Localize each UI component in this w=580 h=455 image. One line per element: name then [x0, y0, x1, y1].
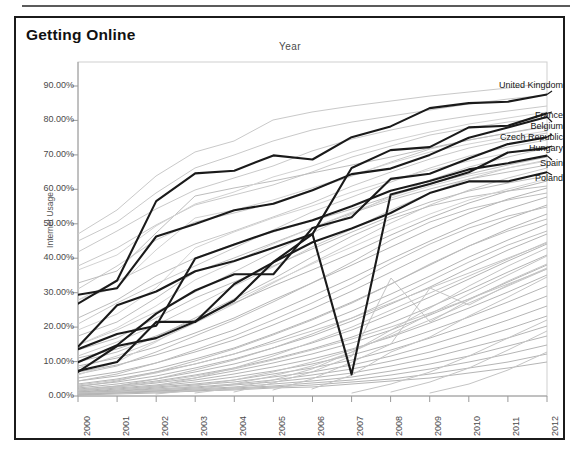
y-tick-label: 70.00%: [22, 149, 74, 159]
series-label-hungary: Hungary: [529, 143, 563, 153]
x-tick-label: 2006: [316, 416, 326, 436]
y-tick-label: 60.00%: [22, 183, 74, 193]
x-tick-label: 2009: [433, 416, 443, 436]
y-tick-label: 0.00%: [22, 390, 74, 400]
x-tick-label: 2011: [511, 417, 521, 436]
x-tick-label: 2003: [199, 416, 209, 436]
x-tick-label: 2000: [82, 416, 92, 436]
series-label-poland: Poland: [535, 173, 563, 183]
x-tick-label: 2004: [238, 416, 248, 436]
series-label-spain: Spain: [540, 158, 563, 168]
y-tick-label: 50.00%: [22, 218, 74, 228]
y-tick-label: 30.00%: [22, 287, 74, 297]
x-tick-label: 2012: [550, 416, 560, 436]
x-tick-marks: [78, 396, 547, 402]
series-label-czech-republic: Czech Republic: [500, 132, 563, 142]
chart-canvas: [0, 0, 580, 455]
y-tick-label: 10.00%: [22, 356, 74, 366]
series-label-france: France: [535, 110, 563, 120]
x-tick-label: 2007: [355, 416, 365, 436]
y-tick-label: 90.00%: [22, 80, 74, 90]
x-tick-label: 2002: [160, 416, 170, 436]
y-tick-label: 20.00%: [22, 321, 74, 331]
page-root: Getting Online Year Internet Usage: [0, 0, 580, 455]
x-tick-label: 2008: [394, 416, 404, 436]
x-tick-label: 2001: [121, 416, 131, 436]
y-tick-label: 80.00%: [22, 114, 74, 124]
y-tick-marks: [72, 86, 78, 396]
series-label-united-kingdom: United Kingdom: [499, 80, 563, 90]
y-tick-label: 40.00%: [22, 252, 74, 262]
series-label-belgium: Belgium: [530, 121, 563, 131]
x-tick-label: 2010: [472, 416, 482, 436]
x-tick-label: 2005: [277, 416, 287, 436]
